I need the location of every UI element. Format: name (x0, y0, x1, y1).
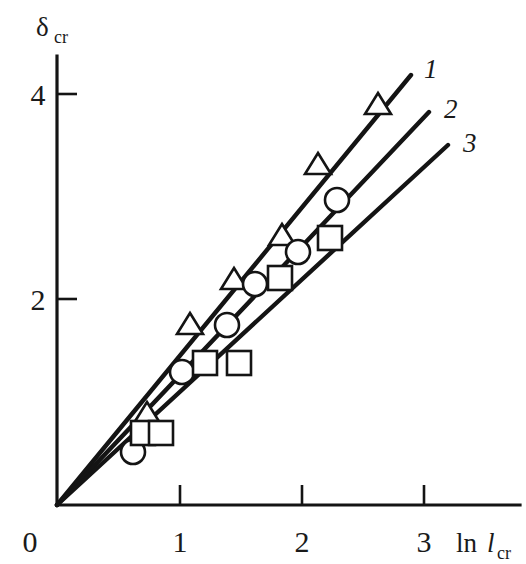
y-ticks-group (57, 94, 77, 299)
data-point-circle (325, 188, 349, 212)
fit-line-series-3 (57, 145, 448, 505)
data-point-square (149, 421, 173, 445)
x-ticklabel-2: 2 (295, 525, 310, 558)
series-label-1: 1 (424, 54, 438, 84)
chart-figure: 4 2 0 1 2 3 δ cr ln l cr 1 2 3 (0, 0, 526, 564)
x-ticks-group (180, 485, 424, 505)
x-ticklabel-1: 1 (173, 525, 188, 558)
data-point-square (227, 351, 251, 375)
series-label-3: 3 (462, 128, 477, 158)
data-point-circle (170, 360, 194, 384)
fit-line-series-2 (57, 112, 429, 505)
chart-svg: 4 2 0 1 2 3 δ cr ln l cr 1 2 3 (0, 0, 526, 564)
x-axis-title: ln (456, 528, 478, 558)
series-3-markers (131, 226, 342, 445)
data-point-square (193, 351, 217, 375)
y-ticklabel-4: 4 (31, 78, 46, 111)
data-point-triangle (305, 153, 331, 174)
x-axis-title-subscript: cr (497, 543, 511, 563)
series-labels-group: 1 2 3 (424, 54, 477, 158)
data-point-triangle (177, 313, 203, 334)
y-axis-title: δ (36, 12, 49, 42)
x-axis-title-italic: l (487, 528, 495, 558)
data-point-square (318, 226, 342, 250)
series-label-2: 2 (444, 94, 458, 124)
data-point-circle (286, 240, 310, 264)
x-ticklabel-3: 3 (417, 525, 432, 558)
x-ticklabel-0: 0 (23, 525, 38, 558)
data-point-circle (215, 313, 239, 337)
y-ticklabel-2: 2 (31, 283, 46, 316)
data-point-circle (243, 272, 267, 296)
data-point-square (268, 266, 292, 290)
y-axis-title-subscript: cr (54, 27, 68, 47)
